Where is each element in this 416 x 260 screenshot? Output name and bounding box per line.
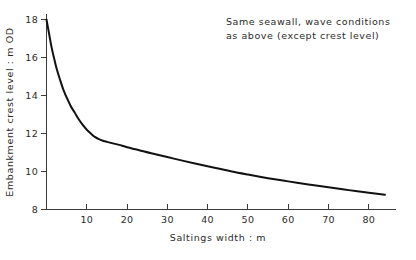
x-tick-label-30: 30 (161, 214, 174, 225)
x-tick-label-40: 40 (201, 214, 214, 225)
x-axis-ticks (87, 204, 369, 210)
chart-canvas: 8 10 12 14 16 18 10 20 30 40 50 60 70 (0, 0, 416, 260)
annotation-condition-note: Same seawall, wave conditions as above (… (226, 16, 390, 41)
x-axis-tick-labels: 10 20 30 40 50 60 70 80 (80, 214, 375, 225)
y-tick-label-10: 10 (25, 166, 38, 177)
y-tick-label-12: 12 (25, 128, 38, 139)
y-axis-title: Embankment crest level : m OD (4, 27, 15, 196)
x-axis-title: Saltings width : m (170, 232, 266, 243)
y-axis-ticks (41, 20, 47, 210)
y-axis-tick-labels: 8 10 12 14 16 18 (25, 14, 38, 215)
x-tick-label-50: 50 (242, 214, 255, 225)
y-tick-label-14: 14 (25, 90, 38, 101)
data-series-line (47, 20, 385, 195)
x-tick-label-10: 10 (80, 214, 93, 225)
x-tick-label-70: 70 (322, 214, 335, 225)
x-tick-label-20: 20 (121, 214, 134, 225)
chart-figure: 8 10 12 14 16 18 10 20 30 40 50 60 70 (0, 0, 416, 260)
x-tick-label-80: 80 (362, 214, 375, 225)
y-tick-label-8: 8 (32, 204, 38, 215)
x-tick-label-60: 60 (282, 214, 295, 225)
annotation-line-1: Same seawall, wave conditions (226, 16, 390, 27)
annotation-line-2: as above (except crest level) (226, 30, 379, 41)
y-tick-label-18: 18 (25, 14, 38, 25)
y-tick-label-16: 16 (25, 52, 38, 63)
